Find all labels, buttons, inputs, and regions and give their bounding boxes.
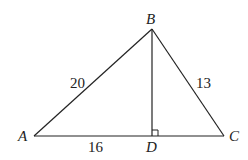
right-angle-marker — [152, 130, 158, 136]
point-label-a: A — [18, 129, 27, 144]
length-label-ad: 16 — [88, 140, 103, 155]
triangle-diagram: B A C D 20 13 16 — [0, 0, 248, 160]
segment-ab — [34, 29, 152, 136]
point-label-b: B — [146, 12, 155, 27]
point-label-c: C — [229, 129, 239, 144]
point-label-d: D — [146, 140, 157, 155]
segment-bc — [152, 29, 224, 136]
length-label-bc: 13 — [196, 76, 211, 91]
length-label-ab: 20 — [70, 76, 85, 91]
